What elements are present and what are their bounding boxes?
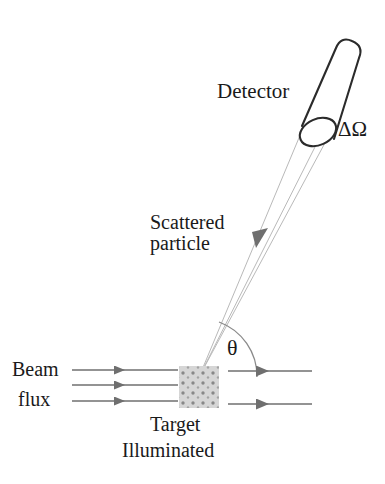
solid-angle-label: ΔΩ [338, 118, 367, 140]
scattering-diagram: Detector ΔΩ Scattered particle θ Beam fl… [0, 0, 385, 484]
theta-label: θ [227, 336, 238, 359]
beam-label: Beam [12, 359, 59, 380]
beam-flux-arrows-in [72, 370, 178, 401]
flux-label: flux [18, 389, 50, 410]
illuminated-label: Illuminated [122, 440, 214, 461]
beam-flux-arrows-out [228, 371, 312, 404]
scattered-particle-label-line1: Scattered [150, 212, 224, 233]
detector-label: Detector [217, 80, 289, 102]
target-label: Target [150, 414, 200, 435]
scattered-particle-label: Scattered particle [150, 212, 224, 254]
scattered-particle-label-line2: particle [150, 233, 224, 254]
target-square [179, 366, 219, 408]
